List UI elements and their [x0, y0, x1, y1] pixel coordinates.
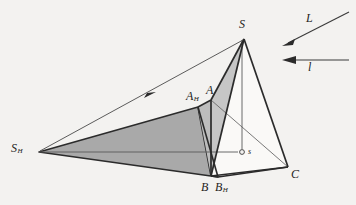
figure-canvas [0, 0, 356, 205]
light-arrow-l-head [282, 56, 296, 64]
vertex-label-BH: BH [215, 181, 228, 194]
light-direction-label-l: l [308, 61, 311, 73]
vertex-label-AH: AH [186, 90, 199, 103]
vertex-label-AH-subscript: H [193, 95, 198, 103]
light-arrow-L-line [288, 12, 349, 43]
shadow-triangle-shape [39, 107, 218, 177]
vertex-label-SH-subscript: H [17, 147, 22, 155]
geometry-figure: S A AH B BH C SH s L l [0, 0, 356, 205]
vertex-label-S: S [239, 18, 245, 30]
vertex-label-SH: SH [11, 142, 22, 155]
foot-point-label-s: s [248, 148, 251, 156]
foot-point-marker [240, 150, 245, 155]
vertex-label-C: C [291, 168, 299, 180]
vertex-label-B: B [201, 181, 208, 193]
vertex-label-BH-subscript: H [222, 186, 227, 194]
vertex-label-A: A [206, 84, 213, 96]
edge-b-bh [211, 176, 218, 177]
light-direction-label-L: L [306, 12, 313, 24]
